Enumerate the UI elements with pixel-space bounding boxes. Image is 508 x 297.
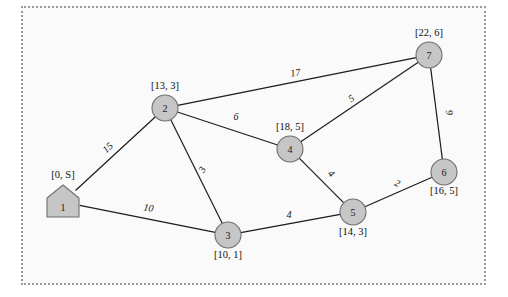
edge-weight-2-4: 6 [234,111,239,122]
edge-4-7 [301,62,418,141]
edge-weight-4-5: 4 [326,168,337,179]
node-label-2: [13, 3] [151,80,179,91]
edge-weight-3-5: 4 [287,209,292,220]
diagram-canvas: 1234567 1510361744529 [0, S][13, 3][10, … [0,0,508,297]
edge-6-7 [431,68,443,159]
edge-weight-4-7: 5 [346,92,356,104]
edge-weight-2-7: 17 [290,66,303,79]
node-label-4: [18, 5] [276,121,304,132]
graph-svg: 1234567 1510361744529 [0, S][13, 3][10, … [0,0,508,297]
node-label-3: [10, 1] [214,249,242,260]
node-label-5: [14, 3] [339,226,367,237]
edge-weight-6-7: 9 [444,109,456,115]
edge-1-2 [76,117,156,191]
edge-weight-1-2: 15 [100,140,115,155]
node-id-4: 4 [288,144,293,155]
edge-2-3 [171,120,222,224]
edge-4-5 [299,158,344,203]
node-id-6: 6 [442,167,447,178]
edge-2-7 [178,58,417,106]
edge-weight-1-3: 10 [143,201,155,214]
node-label-6: [16, 5] [430,185,458,196]
node-id-5: 5 [351,207,356,218]
node-id-7: 7 [427,50,432,61]
node-label-1: [0, S] [51,169,74,180]
edge-weight-5-6: 2 [393,177,402,189]
edges-layer [76,58,443,233]
edge-2-4 [177,112,277,145]
node-id-2: 2 [163,103,168,114]
node-id-1: 1 [61,202,66,213]
node-label-7: [22, 6] [415,27,443,38]
node-id-3: 3 [226,230,231,241]
